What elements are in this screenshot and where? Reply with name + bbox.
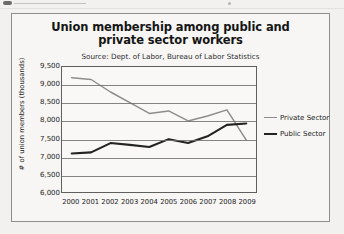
y-tick-label: 8,500 — [40, 98, 60, 106]
grid-line — [62, 85, 256, 86]
x-tick-label: 2002 — [101, 198, 118, 206]
y-tick-label: 6,500 — [40, 171, 60, 179]
x-tick-label: 2007 — [199, 198, 216, 206]
legend-line-swatch — [264, 117, 277, 118]
y-tick-label: 8,000 — [40, 116, 60, 124]
scan-artifact-line — [14, 3, 86, 4]
grid-line — [62, 158, 256, 159]
x-tick-label: 2001 — [82, 198, 99, 206]
legend-label: Public Sector — [280, 130, 325, 138]
x-axis-ticks: 2000200120022003200420052006200720082009 — [61, 198, 257, 212]
x-tick-label: 2008 — [219, 198, 236, 206]
scan-artifact-edge — [0, 8, 344, 9]
chart-legend: Private SectorPublic Sector — [264, 113, 330, 145]
legend-item-private-sector[interactable]: Private Sector — [264, 113, 330, 122]
grid-line — [62, 176, 256, 177]
plot-area-wrapper: # of union members (thousands) 9,5009,00… — [12, 66, 329, 223]
grid-line — [62, 140, 256, 141]
chart-source-note: Source: Dept. of Labor, Bureau of Labor … — [12, 52, 329, 61]
grid-line — [62, 103, 256, 104]
x-tick-label: 2000 — [62, 198, 79, 206]
y-tick-label: 9,000 — [40, 80, 60, 88]
x-tick-label: 2003 — [121, 198, 138, 206]
scan-artifact-mark — [3, 1, 12, 5]
y-axis-label: # of union members (thousands) — [18, 50, 26, 178]
legend-item-public-sector[interactable]: Public Sector — [264, 129, 330, 138]
series-line-public-sector — [72, 123, 247, 153]
x-tick-label: 2005 — [160, 198, 177, 206]
plot-area — [61, 66, 257, 193]
legend-label: Private Sector — [280, 114, 329, 122]
chart-frame: Union membership among public and privat… — [11, 13, 330, 222]
x-tick-label: 2004 — [141, 198, 158, 206]
legend-line-swatch — [264, 133, 277, 135]
series-line-private-sector — [72, 78, 247, 141]
grid-line — [62, 121, 256, 122]
x-tick-label: 2006 — [180, 198, 197, 206]
y-tick-label: 9,500 — [40, 62, 60, 70]
y-tick-label: 7,000 — [40, 153, 60, 161]
scan-artifact-speck — [228, 2, 231, 5]
chart-title: Union membership among public and privat… — [28, 21, 313, 46]
y-tick-label: 6,000 — [40, 189, 60, 197]
y-axis-ticks: 9,5009,0008,5008,0007,5007,0006,5006,000 — [26, 66, 60, 193]
y-tick-label: 7,500 — [40, 135, 60, 143]
x-tick-label: 2009 — [239, 198, 256, 206]
